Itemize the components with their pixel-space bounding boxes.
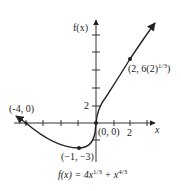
x-tick-label-2: 2 — [127, 127, 132, 138]
point-min — [77, 146, 81, 150]
x-axis-label: x — [154, 124, 160, 135]
point-label-origin: (0, 0) — [98, 126, 120, 138]
point-label-min: (−1, −3) — [61, 151, 94, 163]
point-label-two: (2, 6(2)1/3) — [128, 62, 170, 75]
function-graph: f(x) x 2 2 (-4, 0) (−1, −3) (0, 0) (2, 6… — [0, 0, 181, 191]
y-axis-label: f(x) — [73, 22, 88, 34]
point-two — [128, 57, 132, 61]
point-neg4 — [24, 121, 27, 124]
formula-caption: f(x) = 4x1/3 + x4/3 — [58, 168, 128, 181]
function-curve — [16, 23, 155, 148]
point-label-neg4: (-4, 0) — [9, 103, 34, 115]
y-tick-label-2: 2 — [84, 100, 89, 111]
point-origin — [94, 121, 98, 125]
